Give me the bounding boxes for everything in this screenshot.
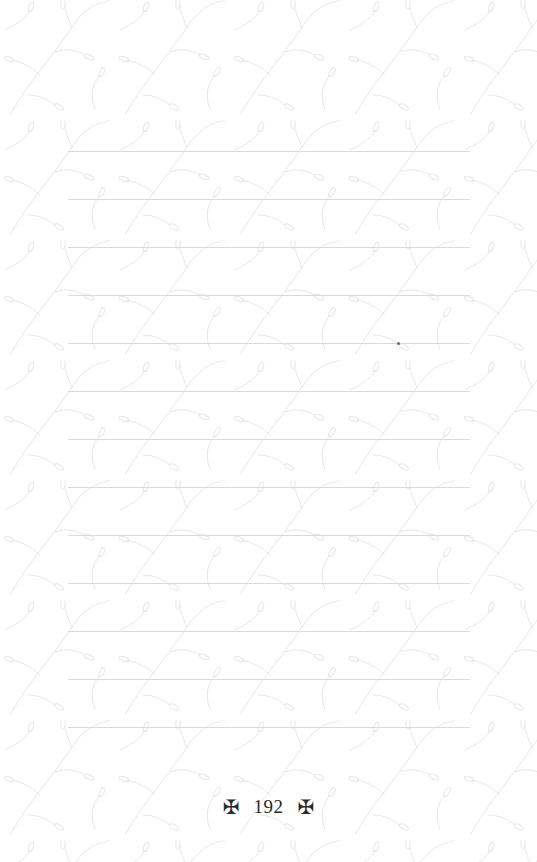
ruled-line <box>68 535 470 536</box>
ruled-line <box>68 247 470 248</box>
ink-dot <box>397 342 400 345</box>
page-number: 192 <box>254 796 284 818</box>
ruled-line <box>68 487 470 488</box>
ruled-line <box>68 391 470 392</box>
page-footer: ✠ 192 ✠ <box>0 796 537 818</box>
maltese-cross-icon: ✠ <box>298 796 315 818</box>
ruled-line <box>68 631 470 632</box>
ruled-line <box>68 727 470 728</box>
maltese-cross-icon: ✠ <box>223 796 240 818</box>
ruled-line <box>68 343 470 344</box>
ruled-line <box>68 151 470 152</box>
ruled-line <box>68 199 470 200</box>
ruled-line <box>68 295 470 296</box>
leaf-pattern-background <box>0 0 537 862</box>
ruled-line <box>68 439 470 440</box>
ruled-line <box>68 679 470 680</box>
ruled-line <box>68 583 470 584</box>
